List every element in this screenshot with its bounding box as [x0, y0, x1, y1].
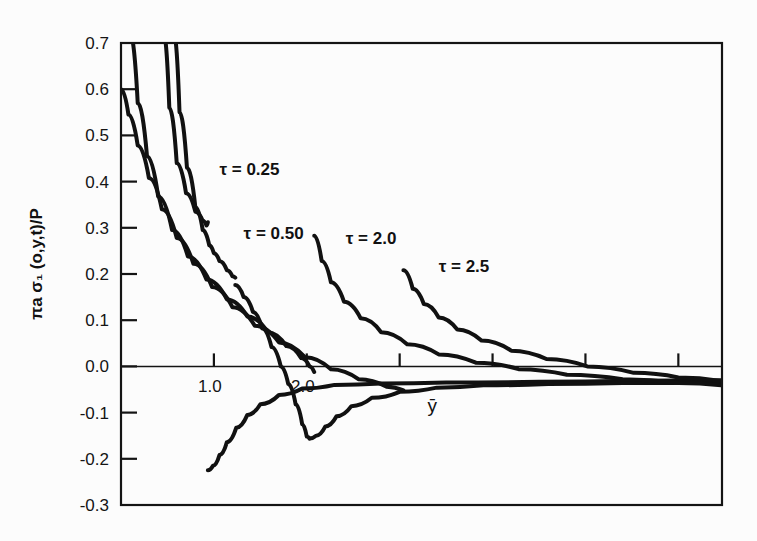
x-axis-title: ȳ [427, 395, 437, 416]
y-axis-ticks [121, 89, 137, 459]
curve-tau-0 [164, 34, 722, 471]
curve-segment [310, 382, 722, 438]
y-tick-label: -0.2 [80, 450, 109, 469]
curve-label-tau-3: τ = 2.5 [439, 257, 490, 276]
curve-label-tau-1: τ = 0.50 [244, 224, 304, 243]
x-tick-labels: 1.02.0 [198, 377, 315, 396]
y-tick-label: 0.4 [85, 173, 109, 192]
y-tick-label: 0.3 [85, 219, 109, 238]
y-tick-label: -0.1 [80, 404, 109, 423]
curve-label-tau-2: τ = 2.0 [346, 229, 397, 248]
plot-frame [121, 43, 722, 505]
y-tick-label: 0.2 [85, 265, 109, 284]
y-axis-title: πa σ₁ (o,y,t)/P [27, 208, 46, 320]
y-tick-label: -0.3 [80, 496, 109, 515]
y-tick-label: 0.0 [85, 357, 109, 376]
curve-annotations: τ = 0.25τ = 0.50τ = 2.0τ = 2.5 [219, 160, 489, 276]
y-tick-label: 0.6 [85, 80, 109, 99]
data-curves [121, 34, 722, 471]
curve-segment [314, 236, 722, 386]
curve-tau-2 [130, 34, 722, 386]
curve-segment [208, 380, 722, 470]
stress-intensity-chart: 1.02.0 0.70.60.50.40.30.20.10.0-0.1-0.2-… [0, 0, 757, 541]
curve-segment [403, 270, 722, 381]
y-tick-label: 0.1 [85, 311, 109, 330]
y-tick-labels: 0.70.60.50.40.30.20.10.0-0.1-0.2-0.3 [80, 34, 109, 515]
figure-container: 1.02.0 0.70.60.50.40.30.20.10.0-0.1-0.2-… [0, 0, 757, 541]
x-tick-label: 1.0 [198, 377, 222, 396]
x-tick-label: 2.0 [291, 377, 315, 396]
y-tick-label: 0.7 [85, 34, 109, 53]
curve-segment [130, 34, 314, 372]
curve-label-tau-0: τ = 0.25 [219, 160, 279, 179]
curve-segment [164, 34, 208, 226]
y-tick-label: 0.5 [85, 126, 109, 145]
